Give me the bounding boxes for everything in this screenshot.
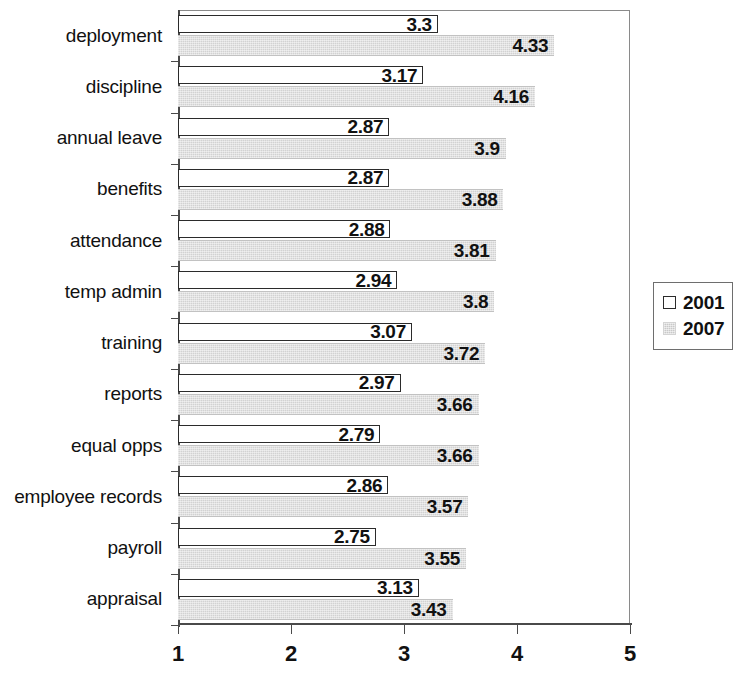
bar-value-label: 3.07 <box>370 322 411 341</box>
bar-group: 3.34.33 <box>178 10 630 61</box>
x-axis-tick-label: 5 <box>624 641 636 667</box>
bar-value-label: 3.66 <box>437 446 479 465</box>
bar-value-label: 3.81 <box>454 241 496 260</box>
x-axis-tick <box>178 625 179 634</box>
legend-label-2007: 2007 <box>683 319 724 338</box>
bar-2001[interactable]: 2.97 <box>178 374 401 392</box>
bar-2001[interactable]: 2.94 <box>178 271 397 289</box>
bar-value-label: 2.97 <box>359 373 400 392</box>
x-axis-tick-label: 2 <box>285 641 297 667</box>
bar-value-label: 3.17 <box>381 66 422 85</box>
x-axis-tick-label: 4 <box>511 641 523 667</box>
bar-2007[interactable]: 3.43 <box>178 599 453 620</box>
bar-chart: deploymentdisciplineannual leavebenefits… <box>0 0 746 688</box>
bar-value-label: 3.8 <box>463 292 495 311</box>
bar-2007[interactable]: 3.66 <box>178 394 479 415</box>
bar-2001[interactable]: 3.13 <box>178 579 419 597</box>
bar-2001[interactable]: 2.87 <box>178 169 389 187</box>
bar-value-label: 2.79 <box>338 425 379 444</box>
bars-container: 3.34.333.174.162.873.92.873.882.883.812.… <box>178 10 630 625</box>
bar-value-label: 3.43 <box>411 600 453 619</box>
bar-group: 2.863.57 <box>178 471 630 522</box>
bar-2007[interactable]: 4.16 <box>178 86 535 107</box>
category-label: benefits <box>97 164 162 215</box>
bar-2007[interactable]: 4.33 <box>178 35 554 56</box>
category-label: training <box>101 318 162 369</box>
x-axis: 12345 <box>178 625 630 685</box>
bar-group: 3.133.43 <box>178 574 630 625</box>
bar-value-label: 2.94 <box>355 271 396 290</box>
bar-value-label: 3.88 <box>462 190 504 209</box>
gray-square-icon <box>663 322 676 335</box>
bar-2007[interactable]: 3.72 <box>178 343 485 364</box>
bar-2001[interactable]: 3.17 <box>178 66 423 84</box>
bar-value-label: 3.66 <box>437 395 479 414</box>
x-axis-tick-label: 3 <box>398 641 410 667</box>
bar-2001[interactable]: 3.07 <box>178 323 412 341</box>
bar-value-label: 3.9 <box>474 139 506 158</box>
bar-2001[interactable]: 2.86 <box>178 476 388 494</box>
legend-item-2001[interactable]: 2001 <box>663 293 724 312</box>
x-axis-tick-label: 1 <box>172 641 184 667</box>
bar-2007[interactable]: 3.8 <box>178 291 494 312</box>
category-label: employee records <box>14 471 162 522</box>
bar-group: 2.753.55 <box>178 523 630 574</box>
category-label: equal opps <box>71 420 162 471</box>
bar-value-label: 4.33 <box>513 36 555 55</box>
bar-value-label: 4.16 <box>493 87 535 106</box>
bar-2007[interactable]: 3.55 <box>178 548 466 569</box>
bar-value-label: 2.86 <box>346 476 387 495</box>
bar-group: 3.073.72 <box>178 318 630 369</box>
bar-value-label: 2.87 <box>348 168 389 187</box>
bar-2001[interactable]: 2.87 <box>178 118 389 136</box>
bar-value-label: 3.13 <box>377 578 418 597</box>
bar-2007[interactable]: 3.9 <box>178 138 506 159</box>
category-label: annual leave <box>57 113 162 164</box>
category-label: appraisal <box>87 574 162 625</box>
bar-2001[interactable]: 3.3 <box>178 15 438 33</box>
bar-value-label: 3.72 <box>444 344 486 363</box>
chart-legend: 2001 2007 <box>653 282 733 350</box>
bar-value-label: 3.55 <box>424 549 466 568</box>
bar-group: 3.174.16 <box>178 61 630 112</box>
bar-2001[interactable]: 2.88 <box>178 220 390 238</box>
white-square-icon <box>663 296 676 309</box>
bar-value-label: 2.88 <box>349 220 390 239</box>
category-label: attendance <box>70 215 162 266</box>
bar-2007[interactable]: 3.57 <box>178 496 468 517</box>
bar-2007[interactable]: 3.88 <box>178 189 503 210</box>
x-axis-tick <box>404 625 405 634</box>
category-label: temp admin <box>65 266 162 317</box>
x-axis-tick <box>630 625 631 634</box>
category-axis-labels: deploymentdisciplineannual leavebenefits… <box>0 10 172 625</box>
category-label: discipline <box>86 61 162 112</box>
bar-group: 2.793.66 <box>178 420 630 471</box>
category-label: deployment <box>66 10 162 61</box>
bar-value-label: 2.87 <box>348 117 389 136</box>
bar-value-label: 3.57 <box>427 497 469 516</box>
bar-group: 2.943.8 <box>178 266 630 317</box>
bar-value-label: 3.3 <box>406 15 437 34</box>
category-label: reports <box>104 369 162 420</box>
bar-2001[interactable]: 2.75 <box>178 528 376 546</box>
bar-group: 2.873.88 <box>178 164 630 215</box>
bar-2007[interactable]: 3.66 <box>178 445 479 466</box>
bar-value-label: 2.75 <box>334 527 375 546</box>
bar-group: 2.883.81 <box>178 215 630 266</box>
bar-2007[interactable]: 3.81 <box>178 240 496 261</box>
x-axis-tick <box>517 625 518 634</box>
legend-item-2007[interactable]: 2007 <box>663 319 724 338</box>
bar-group: 2.873.9 <box>178 113 630 164</box>
bar-2001[interactable]: 2.79 <box>178 425 380 443</box>
x-axis-tick <box>291 625 292 634</box>
legend-label-2001: 2001 <box>683 293 724 312</box>
bar-group: 2.973.66 <box>178 369 630 420</box>
category-label: payroll <box>107 523 162 574</box>
